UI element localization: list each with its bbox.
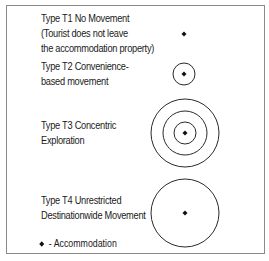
legend: - Accommodation [40,238,117,249]
type-t2-accommodation-icon [181,71,186,76]
accommodation-diamond-icon [39,242,44,248]
legend-label: - Accommodation [49,238,117,249]
type-t4-accommodation-icon [182,210,187,215]
movement-diagram [0,0,269,261]
type-t1-accommodation-icon [181,31,186,36]
type-t3-accommodation-icon [182,130,187,135]
